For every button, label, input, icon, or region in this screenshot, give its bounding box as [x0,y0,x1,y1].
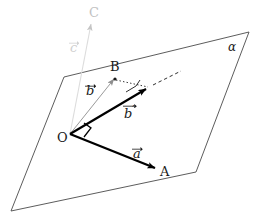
plane-label-alpha: α [228,41,236,53]
vector-a-line [70,134,155,168]
point-label-O: O [57,131,68,144]
vector-label-a: a [133,147,141,160]
plane-alpha-outline [11,32,249,211]
vector-label-c: c [70,41,77,54]
prime-mark-b: ′ [132,103,135,116]
figure-canvas: O A B C α b b′ [0,0,257,219]
point-label-B: B [110,60,120,73]
dashed-extension-ray [153,71,181,85]
point-B-dot [113,77,116,80]
dropline-B-to-foot [116,80,148,87]
vector-label-b-text: b [86,83,94,98]
vector-label-a-text: a [133,146,141,161]
vector-label-b-prime: b′ [124,104,135,120]
point-label-A: A [160,165,169,178]
vector-label-b: b [86,84,94,97]
right-angle-marker-at-foot [126,80,140,92]
vector-label-c-text: c [70,40,77,55]
point-label-C: C [89,6,99,19]
